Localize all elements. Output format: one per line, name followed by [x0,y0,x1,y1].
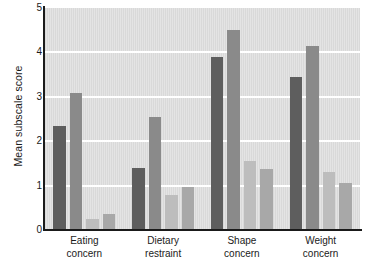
x-category-label-line1: Shape [227,235,256,246]
x-category-label-line2: concern [45,247,124,260]
x-axis-line [43,229,362,231]
y-tick-label: 5 [20,3,42,13]
bar [339,183,352,230]
x-category-label-line1: Eating [70,235,98,246]
plot-area [45,8,360,230]
y-axis-tick-labels: 012345 [18,0,42,240]
x-category-label: Eatingconcern [45,234,124,260]
x-category-label: Weightconcern [281,234,360,260]
x-category-label-line1: Dietary [147,235,179,246]
bar [165,195,178,230]
x-category-label-line2: restraint [124,247,203,260]
x-category-label: Dietaryrestraint [124,234,203,260]
bar-chart: Mean subscale score 012345 Eatingconcern… [0,0,374,267]
y-tick-label: 0 [20,225,42,235]
y-tick-label: 1 [20,181,42,191]
x-category-label-line2: concern [203,247,282,260]
bar [149,117,162,230]
x-category-label-line2: concern [281,247,360,260]
bar [182,187,195,231]
bar [211,57,224,230]
y-tick-label: 4 [20,47,42,57]
bar [260,169,273,230]
bar [244,161,257,230]
y-axis-line [43,6,45,231]
x-axis-category-labels: EatingconcernDietaryrestraintShapeconcer… [45,234,360,264]
x-category-label: Shapeconcern [203,234,282,260]
bar [290,77,303,230]
bar [306,46,319,230]
y-tick-label: 3 [20,92,42,102]
bar [70,93,83,230]
bar [132,168,145,230]
y-tick-label: 2 [20,136,42,146]
bars-layer [45,8,360,230]
bar [323,172,336,230]
bar [227,30,240,230]
x-category-label-line1: Weight [305,235,336,246]
bar [53,126,66,230]
bar [103,214,116,230]
